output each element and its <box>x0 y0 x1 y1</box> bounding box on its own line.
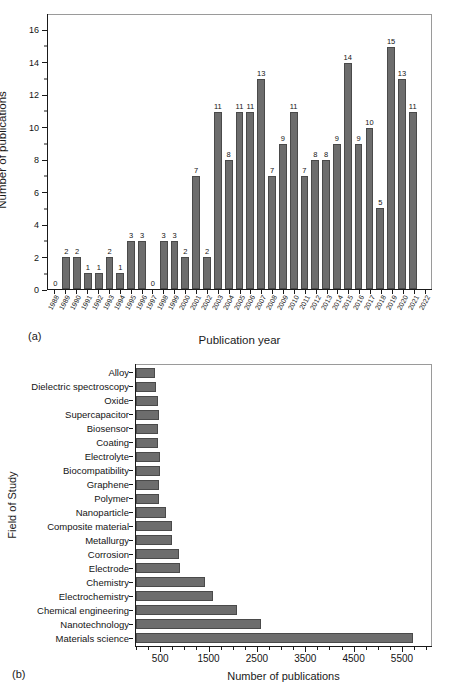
panel-a-x-axis-tick-labels: 1988198919901991199219931994199519961997… <box>47 292 432 332</box>
panel-b-category-label: Alloy <box>0 365 133 379</box>
panel-a-x-label-cell: 2006 <box>245 292 256 332</box>
panel-a-bar-value-label: 13 <box>257 70 265 78</box>
panel-b-y-tick-mark <box>129 372 133 373</box>
panel-a-bar-value-label: 9 <box>335 135 339 143</box>
panel-a-bar-value-label: 5 <box>378 199 382 207</box>
panel-b-x-tick-label: 5500 <box>391 653 413 664</box>
panel-a-x-label-cell: 1990 <box>71 292 82 332</box>
panel-a-bar-column: 0 <box>147 14 158 289</box>
panel-a-bar-value-label: 11 <box>409 103 417 111</box>
panel-b-bar-row <box>136 589 431 603</box>
panel-b-category-label: Electrode <box>0 562 133 576</box>
panel-b-bar <box>136 549 179 559</box>
panel-b-y-tick-mark <box>129 568 133 569</box>
panel-a-x-label-cell: 2007 <box>256 292 267 332</box>
panel-b-bar <box>136 563 180 573</box>
panel-b-y-tick-mark <box>129 610 133 611</box>
panel-a-bar-value-label: 7 <box>194 167 198 175</box>
panel-a-bar-column: 2 <box>180 14 191 289</box>
panel-b-category-label: Electrochemistry <box>0 590 133 604</box>
panel-a-x-tick-label: 2012 <box>308 294 321 311</box>
panel-a-x-label-cell: 1989 <box>60 292 71 332</box>
panel-b-x-tick-mark <box>305 647 306 652</box>
panel-a-x-label-cell: 2001 <box>191 292 202 332</box>
panel-b-y-tick-mark <box>129 582 133 583</box>
panel-b-category-label: Oxide <box>0 393 133 407</box>
panel-a-bar-column: 9 <box>353 14 364 289</box>
panel-b-category-text: Alloy <box>108 367 129 378</box>
panel-a-bar <box>322 160 330 289</box>
panel-a-bar-value-label: 0 <box>53 280 57 288</box>
panel-b-y-tick-mark <box>129 442 133 443</box>
panel-a-bar-column: 0 <box>50 14 61 289</box>
panel-a-x-label-cell: 2011 <box>299 292 310 332</box>
panel-b-x-tick-label: 3500 <box>294 653 316 664</box>
panel-a-x-label-cell: 1993 <box>103 292 114 332</box>
panel-b-y-tick-mark <box>129 540 133 541</box>
panel-a-x-axis-title: Publication year <box>47 334 432 346</box>
panel-a-x-tick-label: 2003 <box>210 294 223 311</box>
panel-b-x-tick-mark <box>233 647 234 650</box>
panel-b-x-tick-mark <box>293 647 294 650</box>
panel-b-category-text: Chemistry <box>86 577 129 588</box>
panel-b-bar <box>136 382 156 392</box>
panel-a-y-tick-label: 12 <box>29 90 42 100</box>
panel-a-bar-column: 14 <box>342 14 353 289</box>
panel-b-category-text: Nanotechnology <box>60 619 129 630</box>
panel-b-y-tick-mark <box>129 638 133 639</box>
panel-b-x-tick-label: 500 <box>152 653 169 664</box>
panel-b-category-label: Graphene <box>0 477 133 491</box>
panel-b-x-tick-mark <box>160 647 161 652</box>
panel-a-bar-value-label: 3 <box>172 232 176 240</box>
panel-a-bar-column: 3 <box>126 14 137 289</box>
panel-a-x-label-cell: 2014 <box>332 292 343 332</box>
panel-a-bar-value-label: 11 <box>290 103 298 111</box>
panel-b-x-tick-label: 1500 <box>197 653 219 664</box>
panel-a-bar <box>73 257 81 289</box>
panel-b-x-axis-title: Number of publications <box>135 670 432 682</box>
panel-b-bar-row <box>136 366 431 380</box>
panel-a-x-label-cell: 2019 <box>387 292 398 332</box>
panel-a-bar-value-label: 3 <box>162 232 166 240</box>
panel-b-category-label: Electrolyte <box>0 449 133 463</box>
panel-a-bar-value-label: 7 <box>270 167 274 175</box>
panel-a-bar-column: 9 <box>277 14 288 289</box>
panel-b-bar-row <box>136 617 431 631</box>
panel-b-bar <box>136 535 172 545</box>
panel-a-bar-column: 1 <box>115 14 126 289</box>
panel-b-category-text: Nanoparticle <box>76 507 129 518</box>
panel-b-x-tick-mark <box>329 647 330 650</box>
panel-b-category-label: Chemical engineering <box>0 604 133 618</box>
panel-b-plot-area <box>135 364 432 647</box>
figure-publications: Number of publications 0246810121416 022… <box>0 0 456 697</box>
panel-a-x-label-cell: 2010 <box>289 292 300 332</box>
panel-a-x-label-cell: 2003 <box>212 292 223 332</box>
panel-a-bar-value-label: 3 <box>129 232 133 240</box>
panel-a-bar <box>62 257 70 289</box>
panel-a-bar <box>344 63 352 289</box>
panel-b-category-text: Biocompatibility <box>63 465 129 476</box>
panel-a-x-label-cell: 1992 <box>93 292 104 332</box>
panel-b-bar-row <box>136 506 431 520</box>
panel-a-bar-value-label: 1 <box>86 264 90 272</box>
panel-b-x-tick-label: 4500 <box>342 653 364 664</box>
panel-a-y-tick: 16 <box>29 25 47 35</box>
panel-b-bar-row <box>136 464 431 478</box>
panel-b-x-axis-ticks <box>135 647 432 652</box>
panel-a-bar-column: 8 <box>321 14 332 289</box>
panel-b-y-tick-mark <box>129 386 133 387</box>
panel-b-category-label: Biocompatibility <box>0 463 133 477</box>
panel-b-bar <box>136 633 413 643</box>
panel-a-x-label-cell: 2021 <box>408 292 419 332</box>
panel-b-category-label: Dielectric spectroscopy <box>0 379 133 393</box>
panel-a-bar-value-label: 11 <box>236 103 244 111</box>
panel-b-category-text: Electrolyte <box>85 451 129 462</box>
panel-a-bar-column: 1 <box>93 14 104 289</box>
panel-b-bar <box>136 410 159 420</box>
panel-a-bar <box>311 160 319 289</box>
panel-a-bar-value-label: 11 <box>214 103 222 111</box>
panel-a-bar <box>257 79 265 289</box>
panel-b-category-text: Electrochemistry <box>59 591 129 602</box>
panel-a-x-label-cell: 1991 <box>82 292 93 332</box>
panel-b-category-label: Materials science <box>0 632 133 646</box>
